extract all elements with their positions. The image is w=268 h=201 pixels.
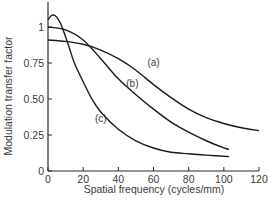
curve-label-c: (c)	[95, 113, 107, 124]
curve-label-a: (a)	[147, 57, 159, 68]
curve-labels: (a)(b)(c)	[95, 57, 160, 124]
y-tick-label: 1	[38, 21, 44, 33]
axes: 02040608010012000.250.500.751	[24, 2, 268, 185]
y-axis-label: Modulation transfer factor	[2, 36, 14, 156]
y-tick-label: 0.25	[24, 129, 45, 141]
curves	[48, 15, 259, 157]
mtf-chart: 02040608010012000.250.500.751 (a)(b)(c) …	[0, 0, 268, 201]
x-axis-label: Spatial frequency (cycles/mm)	[84, 183, 225, 195]
curve-label-b: (b)	[126, 78, 138, 89]
y-tick-label: 0.75	[24, 57, 45, 69]
y-tick-label: 0	[38, 165, 44, 177]
x-tick-label: 0	[45, 173, 51, 185]
x-tick-label: 120	[250, 173, 268, 185]
y-tick-label: 0.50	[24, 93, 45, 105]
curve-a	[48, 40, 259, 131]
curve-c	[48, 15, 229, 157]
curve-b	[48, 27, 229, 149]
